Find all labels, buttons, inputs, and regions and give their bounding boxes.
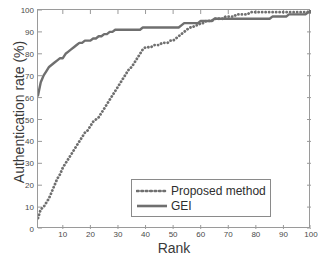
x-tick-label: 60 [196, 230, 205, 239]
x-tick-label: 70 [224, 230, 233, 239]
x-tick-label: 10 [58, 230, 67, 239]
x-tick-label: 80 [251, 230, 260, 239]
dotted-line-swatch-icon [136, 185, 168, 197]
chart-figure: Authentication rate (%) 0102030405060708… [0, 0, 320, 259]
x-tick-label: 40 [141, 230, 150, 239]
chart-legend[interactable]: Proposed method GEI [131, 179, 271, 217]
series-line-gei [38, 12, 311, 95]
solid-line-swatch-icon [136, 200, 168, 212]
legend-label-proposed-method: Proposed method [171, 185, 266, 197]
legend-item-proposed-method[interactable]: Proposed method [136, 183, 266, 198]
y-tick-label: 50 [25, 115, 34, 124]
y-tick-label: 30 [25, 159, 34, 168]
y-tick-label: 60 [25, 93, 34, 102]
legend-item-gei[interactable]: GEI [136, 198, 266, 213]
x-tick-label: 100 [304, 230, 317, 239]
x-tick-label: 90 [279, 230, 288, 239]
y-tick-label: 0 [30, 225, 34, 234]
y-tick-label: 80 [25, 49, 34, 58]
y-tick-label: 90 [25, 27, 34, 36]
legend-label-gei: GEI [171, 200, 192, 212]
x-tick-label: 20 [86, 230, 95, 239]
y-tick-label: 100 [21, 6, 34, 15]
y-tick-label: 40 [25, 137, 34, 146]
y-tick-label: 20 [25, 181, 34, 190]
y-tick-label: 70 [25, 71, 34, 80]
x-axis-label: Rank [37, 240, 311, 256]
y-tick-label: 10 [25, 203, 34, 212]
x-tick-label: 50 [169, 230, 178, 239]
x-tick-label: 30 [114, 230, 123, 239]
